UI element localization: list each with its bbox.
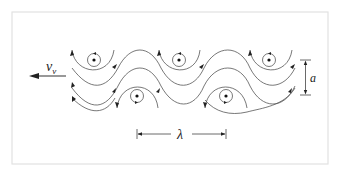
arrow-icon	[112, 88, 116, 93]
arrow-icon	[203, 102, 207, 108]
figure-frame	[12, 12, 328, 164]
up-arrow-icon	[304, 61, 307, 66]
arrow-icon	[248, 50, 252, 56]
vortex-bottom-1	[131, 90, 144, 105]
vortex-center-dot-icon	[224, 94, 227, 97]
arrow-icon	[112, 64, 117, 69]
vortex-center-dot-icon	[92, 58, 95, 61]
velocity-indicator: vv	[29, 59, 66, 79]
vortex-center-dot-icon	[267, 58, 270, 61]
amplitude-label: a	[310, 71, 316, 85]
bottom-vortex-row	[131, 90, 233, 105]
vortex-bottom-2	[220, 90, 233, 105]
rotation-arrow-icon	[268, 52, 271, 55]
streamlines	[72, 50, 295, 114]
velocity-subscript: v	[52, 66, 56, 76]
vortex-center-dot-icon	[177, 58, 180, 61]
arrow-icon	[156, 88, 160, 93]
arrow-icon	[71, 82, 75, 88]
arrow-icon	[199, 64, 204, 69]
vortex-top-3	[263, 52, 276, 67]
vortex-top-2	[173, 52, 186, 67]
rotation-arrow-icon	[135, 101, 138, 104]
arrow-icon	[157, 50, 161, 56]
left-arrow-icon	[29, 73, 39, 79]
velocity-label: vv	[46, 59, 56, 76]
rotation-arrow-icon	[224, 101, 227, 104]
wavelength-label: λ	[176, 127, 183, 142]
streamline-wave-3b	[205, 88, 295, 114]
rotation-arrow-icon	[178, 52, 181, 55]
streamline-wave-2	[72, 68, 295, 105]
vortex-center-dot-icon	[135, 94, 138, 97]
top-vortex-row	[88, 52, 276, 67]
wavelength-dimension: λ	[137, 127, 226, 142]
left-arrow-icon	[138, 132, 143, 135]
rotation-arrow-icon	[93, 52, 96, 55]
vortex-street-diagram: vv a λ	[0, 0, 340, 175]
arrow-icon	[70, 50, 74, 56]
down-arrow-icon	[304, 90, 307, 95]
right-arrow-icon	[221, 132, 226, 135]
vortex-top-1	[88, 52, 101, 67]
arrow-icon	[115, 102, 119, 108]
amplitude-dimension: a	[300, 60, 316, 95]
arrow-icon	[290, 64, 295, 69]
streamline-arrows	[70, 50, 295, 108]
